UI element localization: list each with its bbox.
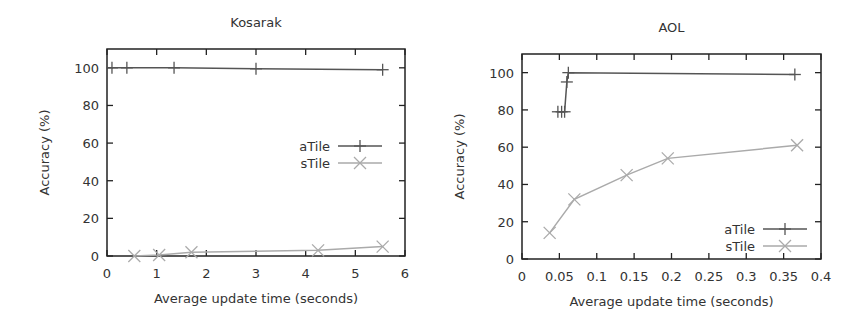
legend: aTilesTile: [299, 139, 382, 171]
x-tick-label: 0.35: [769, 269, 798, 284]
series-line-aTile: [112, 68, 383, 70]
legend: aTilesTile: [724, 222, 807, 254]
plus-marker-icon: [559, 106, 571, 118]
legend-label: sTile: [300, 156, 330, 171]
x-axis-label: Average update time (seconds): [154, 291, 358, 306]
y-tick-label: 40: [497, 177, 514, 192]
y-tick-label: 0: [91, 249, 99, 264]
chart-title: Kosarak: [230, 15, 282, 30]
figure: Kosarak Average update time (seconds) Ac…: [0, 0, 858, 331]
legend-label: aTile: [724, 222, 755, 237]
series-line-aTile: [558, 73, 795, 112]
plus-marker-icon: [779, 223, 791, 235]
chart-title: AOL: [658, 20, 685, 35]
y-tick-label: 60: [497, 140, 514, 155]
x-tick-label: 4: [302, 266, 310, 281]
plus-marker-icon: [121, 62, 133, 74]
y-tick-label: 60: [82, 136, 99, 151]
y-tick-label: 80: [497, 103, 514, 118]
plot-area: [106, 62, 389, 262]
plus-marker-icon: [561, 76, 573, 88]
x-tick-label: 6: [401, 266, 409, 281]
legend-label: sTile: [725, 239, 755, 254]
figure-svg: Kosarak Average update time (seconds) Ac…: [0, 0, 858, 331]
y-tick-label: 20: [497, 215, 514, 230]
plot-area: [544, 67, 803, 239]
x-tick-label: 0: [103, 266, 111, 281]
x-tick-label: 0.05: [545, 269, 574, 284]
axes: 00.050.10.150.20.250.30.350.402040608010…: [489, 54, 831, 284]
y-tick-label: 100: [489, 66, 514, 81]
y-axis-label: Accuracy (%): [37, 110, 52, 196]
x-tick-label: 0.25: [694, 269, 723, 284]
x-tick-label: 0.2: [661, 269, 682, 284]
y-tick-label: 20: [82, 211, 99, 226]
y-tick-label: 100: [74, 61, 99, 76]
x-tick-label: 2: [202, 266, 210, 281]
legend-label: aTile: [299, 139, 330, 154]
x-tick-label: 0.15: [620, 269, 649, 284]
plus-marker-icon: [789, 69, 801, 81]
plus-marker-icon: [250, 63, 262, 75]
plus-marker-icon: [562, 67, 574, 79]
x-axis-label: Average update time (seconds): [569, 294, 773, 309]
series-line-sTile: [134, 247, 382, 256]
y-axis-label: Accuracy (%): [452, 114, 467, 200]
cross-marker-icon: [621, 169, 633, 181]
series-line-sTile: [550, 145, 797, 233]
y-tick-label: 80: [82, 98, 99, 113]
x-tick-label: 5: [351, 266, 359, 281]
x-tick-label: 3: [252, 266, 260, 281]
y-tick-label: 40: [82, 174, 99, 189]
x-tick-label: 1: [153, 266, 161, 281]
cross-marker-icon: [568, 193, 580, 205]
x-tick-label: 0: [518, 269, 526, 284]
plus-marker-icon: [168, 62, 180, 74]
plus-marker-icon: [354, 140, 366, 152]
y-tick-label: 0: [506, 252, 514, 267]
x-tick-label: 0.4: [811, 269, 832, 284]
chart-kosarak: Kosarak Average update time (seconds) Ac…: [37, 15, 409, 306]
plot-frame: [107, 49, 405, 256]
x-tick-label: 0.1: [586, 269, 607, 284]
chart-aol: AOL Average update time (seconds) Accura…: [452, 20, 831, 309]
plus-marker-icon: [106, 62, 118, 74]
x-tick-label: 0.3: [736, 269, 757, 284]
plus-marker-icon: [377, 64, 389, 76]
cross-marker-icon: [544, 227, 556, 239]
